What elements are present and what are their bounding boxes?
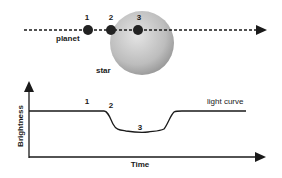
transit-diagram: 1 2 3 planet star 1 2 3 light curve Brig…: [0, 0, 282, 178]
orbit-arrow-icon: [256, 25, 267, 35]
y-axis-arrow-icon: [24, 81, 34, 92]
position-label-1: 1: [85, 13, 90, 22]
planet-position-2: [106, 25, 116, 35]
x-axis-arrow-icon: [255, 152, 266, 162]
curve-point-label-3: 3: [138, 123, 143, 132]
star: [110, 11, 174, 75]
position-label-3: 3: [137, 13, 142, 22]
planet-position-3: [133, 25, 143, 35]
star-label: star: [96, 66, 111, 75]
transit-panel: 1 2 3 planet star: [24, 11, 267, 75]
light-curve-chart: 1 2 3 light curve Brightness Time: [16, 81, 266, 169]
position-label-2: 2: [109, 13, 114, 22]
curve-point-label-1: 1: [85, 97, 90, 106]
curve-point-label-2: 2: [109, 101, 114, 110]
planet-position-1: [83, 25, 93, 35]
x-axis-label: Time: [131, 160, 150, 169]
y-axis-label: Brightness: [16, 105, 25, 147]
planet-label: planet: [56, 34, 80, 43]
light-curve-label: light curve: [207, 97, 244, 106]
